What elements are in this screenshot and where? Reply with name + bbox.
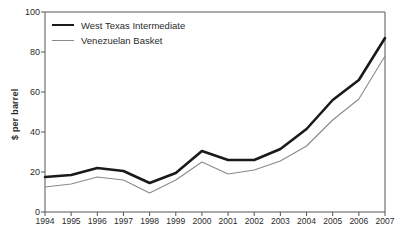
x-tick-label: 1996	[88, 216, 107, 226]
x-tick-label: 2003	[271, 216, 290, 226]
y-tick-marks	[41, 12, 45, 212]
x-tick-label: 1998	[140, 216, 159, 226]
x-tick-label: 2002	[245, 216, 264, 226]
x-tick-label: 1995	[62, 216, 81, 226]
x-tick-label: 2004	[297, 216, 316, 226]
x-tick-label: 2000	[192, 216, 211, 226]
y-axis-tick-labels: 0 20 40 60 80 100	[0, 0, 40, 248]
chart-legend: West Texas Intermediate Venezuelan Baske…	[52, 18, 185, 48]
x-tick-label: 1999	[166, 216, 185, 226]
legend-line-icon	[52, 40, 74, 41]
x-tick-label: 2006	[349, 216, 368, 226]
y-tick-label: 40	[30, 127, 40, 137]
series-line-west-texas-intermediate	[45, 56, 385, 193]
y-tick-label: 80	[30, 47, 40, 57]
y-tick-label: 100	[25, 7, 40, 17]
y-tick-label: 20	[30, 167, 40, 177]
oil-price-line-chart: $ per barrel 0 20 40 60 80 100 199419951…	[0, 0, 398, 248]
legend-item-label: Venezuelan Basket	[81, 35, 162, 46]
x-tick-label: 1997	[114, 216, 133, 226]
legend-item-west-texas-intermediate: West Texas Intermediate	[52, 18, 185, 32]
legend-item-venezuelan-basket: Venezuelan Basket	[52, 33, 185, 47]
legend-item-label: West Texas Intermediate	[81, 20, 185, 31]
series-line-venezuelan-basket	[45, 38, 385, 183]
x-tick-label: 2001	[219, 216, 238, 226]
legend-line-icon	[52, 24, 74, 26]
x-tick-label: 2007	[376, 216, 395, 226]
x-tick-label: 2005	[323, 216, 342, 226]
y-tick-label: 60	[30, 87, 40, 97]
x-tick-label: 1994	[36, 216, 55, 226]
